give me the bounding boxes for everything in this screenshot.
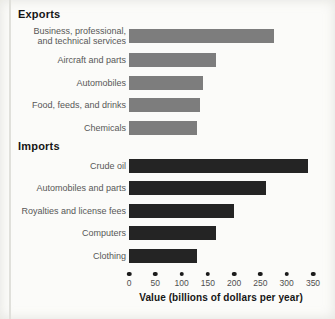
bar-track [129,226,313,240]
axis-tick-label: 250 [253,278,267,288]
bar-label: Computers [18,228,129,238]
axis-tick-label: 200 [227,278,241,288]
bar-aircraft-and-parts [129,53,216,67]
bar-chemicals [129,121,197,135]
bar-track [129,181,313,195]
bar-crude-oil [129,159,308,173]
textbook-figure: ExportsBusiness, professional,and techni… [0,0,335,319]
bar-track [129,98,313,112]
chart-row-clothing: Clothing [18,245,318,268]
axis-tick-dot [153,272,158,277]
bar-track [129,204,313,218]
axis-tick-label: 350 [306,278,320,288]
page-edge-line [9,0,11,319]
axis-tick-dot [232,272,237,277]
section-header-exports: Exports [18,8,318,23]
axis-tick-label: 150 [201,278,215,288]
bar-label: Food, feeds, and drinks [18,100,129,110]
bar-business-professional [129,29,274,43]
chart-row-food-feeds-and-drinks: Food, feeds, and drinks [18,94,318,117]
bar-automobiles [129,76,203,90]
bar-label: Business, professional,and technical ser… [18,26,129,46]
bar-automobiles-and-parts [129,181,266,195]
axis-tick-label: 50 [151,278,160,288]
bar-label: Automobiles and parts [18,183,129,193]
axis-tick-dot [127,272,132,277]
bar-royalties-and-license-fees [129,204,234,218]
axis-tick-dot [311,272,316,277]
bar-track [129,76,313,90]
axis-tick-dot [206,272,211,277]
chart-row-computers: Computers [18,222,318,245]
chart-row-royalties-and-license-fees: Royalties and license fees [18,200,318,223]
x-axis-tick-labels: 050100150200250300350 [129,278,313,289]
axis-tick-label: 300 [280,278,294,288]
chart-row-crude-oil: Crude oil [18,154,318,177]
bar-label: Chemicals [18,123,129,133]
bar-track [129,29,313,43]
axis-tick-label: 100 [175,278,189,288]
bar-track [129,159,313,173]
chart-row-automobiles-and-parts: Automobiles and parts [18,177,318,200]
bar-food-feeds-and-drinks [129,98,200,112]
bar-label: Clothing [18,251,129,261]
x-axis-dots [129,270,313,278]
bar-label: Automobiles [18,78,129,88]
x-axis-title: Value (billions of dollars per year) [129,292,313,303]
bar-clothing [129,249,197,263]
chart-row-business-professional: Business, professional,and technical ser… [18,23,318,49]
chart-row-chemicals: Chemicals [18,117,318,140]
section-header-imports: Imports [18,139,318,154]
x-axis: 050100150200250300350 Value (billions of… [129,270,313,303]
trade-bar-chart: ExportsBusiness, professional,and techni… [18,8,318,303]
bar-track [129,249,313,263]
chart-row-automobiles: Automobiles [18,72,318,95]
axis-tick-dot [258,272,263,277]
bar-track [129,121,313,135]
bar-track [129,53,313,67]
axis-tick-label: 0 [127,278,132,288]
bar-label: Royalties and license fees [18,206,129,216]
axis-tick-dot [284,272,289,277]
bar-computers [129,226,216,240]
bar-label: Crude oil [18,161,129,171]
axis-tick-dot [179,272,184,277]
chart-rows: ExportsBusiness, professional,and techni… [18,8,318,267]
chart-row-aircraft-and-parts: Aircraft and parts [18,49,318,72]
bar-label: Aircraft and parts [18,55,129,65]
